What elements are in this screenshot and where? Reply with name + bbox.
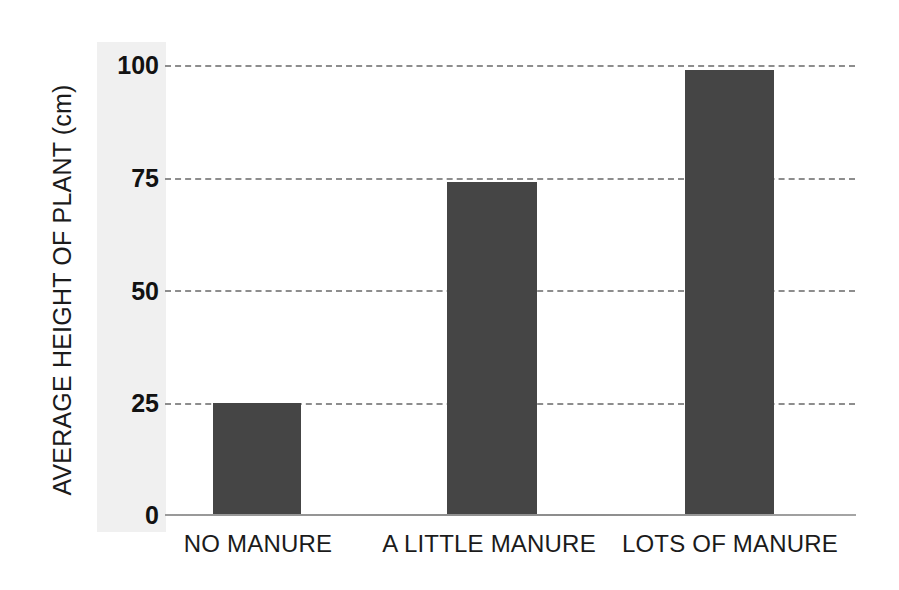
plot-area — [165, 42, 855, 515]
y-axis-tick-labels: 100 75 50 25 0 — [97, 0, 159, 590]
x-label-a-little-manure: A LITTLE MANURE — [382, 530, 596, 558]
y-tick-label-25: 25 — [97, 391, 159, 416]
x-label-lots-of-manure: LOTS OF MANURE — [622, 530, 838, 558]
y-tick-label-100: 100 — [97, 53, 159, 78]
chart-page: AVERAGE HEIGHT OF PLANT (cm) 100 75 50 2… — [0, 0, 899, 590]
bar-no-manure — [213, 403, 301, 516]
x-axis-line — [165, 514, 856, 516]
gridline-100 — [165, 65, 855, 67]
x-label-no-manure: NO MANURE — [184, 530, 332, 558]
bar-a-little-manure — [447, 182, 537, 515]
bar-lots-of-manure — [685, 70, 774, 516]
y-tick-label-0: 0 — [97, 503, 159, 528]
y-tick-label-75: 75 — [97, 166, 159, 191]
y-axis-title: AVERAGE HEIGHT OF PLANT (cm) — [48, 55, 77, 525]
y-tick-label-50: 50 — [97, 279, 159, 304]
